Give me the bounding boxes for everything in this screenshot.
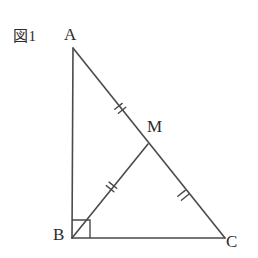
vertex-label-a: A [64, 25, 76, 45]
segment-bm [72, 144, 148, 238]
figure-canvas: 図1 A B C M [0, 0, 258, 258]
figure-caption: 図1 [13, 24, 37, 45]
geometry-drawing [0, 0, 258, 258]
vertex-label-m: M [147, 117, 162, 137]
vertex-label-b: B [53, 225, 64, 245]
vertex-label-c: C [226, 232, 237, 252]
segment-ab [72, 48, 73, 238]
